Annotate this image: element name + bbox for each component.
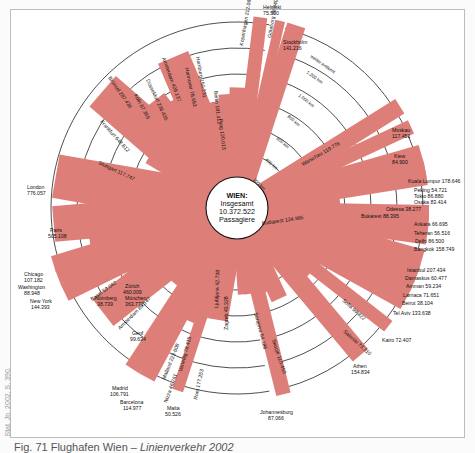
city-label: 84.900 [392,159,408,165]
city-label: 107.182 [24,277,43,283]
source-note: Stat. Jb. 2002, S. 390. [4,367,11,437]
city-label: 50.526 [165,411,181,417]
city-label: Istanbul 207.434 [407,267,445,273]
city-label: Damaskus 60.477 [405,275,447,281]
ring-label: weiter entfernt [309,54,336,75]
city-label: 106.791 [110,391,129,397]
city-label: Bukarest 88.395 [361,213,399,219]
city-label: Ankara 66.695 [414,221,448,227]
city-label: 88.948 [24,290,40,296]
city-label: 776.057 [27,190,46,196]
city-label: Kuala Lumpur 178.646 [408,178,461,184]
city-label: 505.108 [48,233,67,239]
city-label: 38.739 [97,301,113,307]
city-label: Larnaca 71.651 [403,292,439,298]
caption-number: Fig. 71 [14,441,48,453]
city-label: Osaka 83.414 [414,199,446,205]
city-label: Bangkok 158.749 [414,246,454,252]
city-label: Amman 59.234 [406,283,441,289]
city-label: Kairo 72.407 [382,337,412,343]
ring-label: 1.000 km [297,93,315,109]
caption-title: Flughafen Wien – [51,441,137,453]
city-label-rotated: Rom 177.253 [192,368,204,400]
city-label-rotated: Zagreb 43.328 [223,296,229,330]
city-label: 154.834 [351,369,370,375]
city-label: Beirut 38.104 [402,300,433,306]
figure-caption: Fig. 71 Flughafen Wien – Linienverkehr 2… [14,441,234,453]
ring-label: 600 km [275,136,290,150]
city-label: 117.451 [392,133,410,139]
city-label-rotated: Kopenhagen 212.067 [238,0,253,46]
city-label: 144.393 [31,304,50,310]
center-line4: Passagiere [219,215,255,224]
city-label: Tokio 86.880 [414,193,444,199]
city-label: 99.634 [130,336,146,342]
caption-subtitle: Linienverkehr 2002 [140,441,234,453]
city-label: Tel Aviv 133.638 [393,310,431,316]
city-label: Teheran 56.516 [414,230,450,236]
city-label: Peking 54.721 [414,187,447,193]
city-label: Odessa 38.277 [386,206,421,212]
city-label: 87.066 [268,415,284,421]
city-label: 141.216 [283,45,302,51]
city-label: 460.009 [123,289,142,295]
city-label: Delhi 86.500 [415,238,444,244]
city-label: 114.977 [123,405,141,411]
ring-label: 400 km [264,157,279,171]
